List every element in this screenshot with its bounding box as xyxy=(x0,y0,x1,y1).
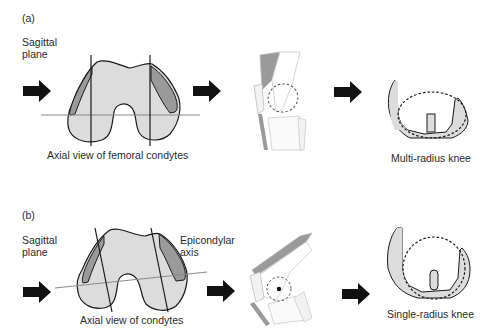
panel-b-lateral-knee-sketch xyxy=(250,233,312,326)
panel-b-arrow-1-icon xyxy=(23,281,51,303)
panel-a-multi-radius-implant xyxy=(388,80,468,138)
panel-a-femoral-condyles xyxy=(41,55,200,146)
panel-a-lateral-knee-sketch xyxy=(254,52,306,150)
panel-b-arrow-3-icon xyxy=(342,283,370,305)
panel-a-arrow-1-icon xyxy=(23,80,51,102)
center-point-icon xyxy=(277,287,281,291)
panel-b-single-radius-implant xyxy=(387,228,470,299)
panel-a-arrow-3-icon xyxy=(334,81,362,103)
panel-b-arrow-2-icon xyxy=(207,280,235,302)
panel-a-arrow-2-icon xyxy=(193,80,221,102)
diagram-canvas xyxy=(0,0,502,336)
panel-b-femoral-condyles xyxy=(55,228,207,312)
